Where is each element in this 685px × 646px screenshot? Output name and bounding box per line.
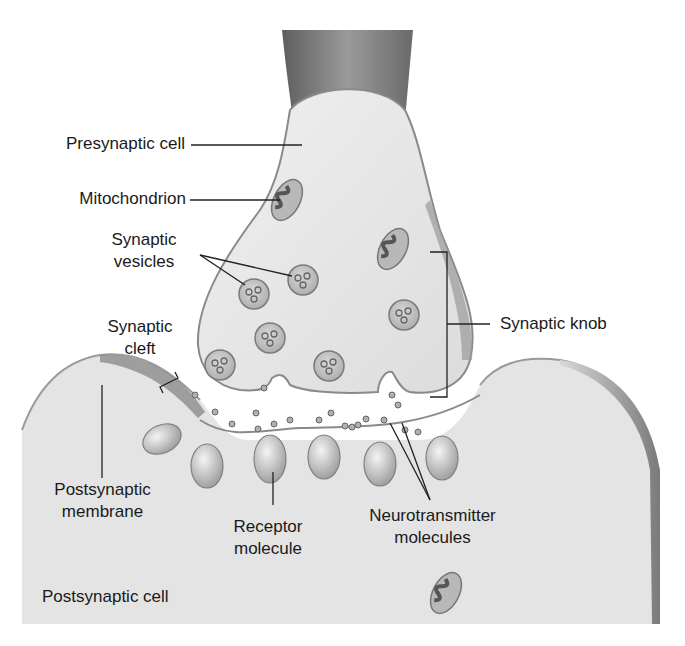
label-synaptic-vesicles-line2: vesicles: [100, 252, 188, 272]
label-postsynaptic-membrane-line2: membrane: [40, 502, 165, 522]
synaptic-knob-shape: [198, 89, 473, 393]
label-postsynaptic-cell: Postsynaptic cell: [42, 587, 169, 607]
label-receptor-molecule-line2: molecule: [218, 539, 318, 559]
label-synaptic-cleft-line1: Synaptic: [95, 317, 185, 337]
label-neurotransmitter-line1: Neurotransmitter: [350, 506, 515, 526]
label-mitochondrion: Mitochondrion: [30, 189, 186, 209]
label-receptor-molecule-line1: Receptor: [218, 517, 318, 537]
label-presynaptic-cell: Presynaptic cell: [40, 134, 185, 154]
label-synaptic-vesicles-line1: Synaptic: [100, 230, 188, 250]
label-neurotransmitter-line2: molecules: [350, 528, 515, 548]
label-synaptic-knob: Synaptic knob: [500, 314, 607, 334]
label-synaptic-cleft-line2: cleft: [95, 339, 185, 359]
label-postsynaptic-membrane-line1: Postsynaptic: [40, 480, 165, 500]
